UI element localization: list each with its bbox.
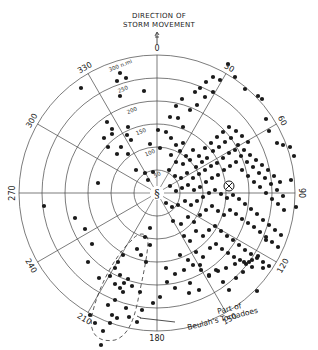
storm-point — [185, 171, 189, 175]
storm-point — [179, 176, 183, 180]
storm-point — [225, 196, 229, 200]
storm-point — [228, 164, 232, 168]
storm-point — [194, 250, 198, 254]
storm-point — [233, 148, 237, 152]
storm-point — [118, 286, 122, 290]
storm-point — [216, 173, 220, 177]
storm-point — [169, 136, 173, 140]
storm-point — [173, 286, 177, 290]
storm-point — [264, 117, 268, 121]
storm-point — [241, 270, 245, 274]
storm-point — [201, 255, 205, 259]
storm-point — [187, 291, 191, 295]
storm-point — [273, 228, 277, 232]
inner-spoke — [161, 199, 169, 213]
storm-point — [164, 130, 168, 134]
storm-point — [119, 145, 123, 149]
storm-point — [148, 243, 152, 247]
bearing-label-270: 270 — [8, 185, 17, 200]
storm-point — [269, 182, 273, 186]
storm-point — [282, 208, 286, 212]
storm-point — [138, 290, 142, 294]
storm-point — [108, 274, 112, 278]
inner-spoke — [137, 197, 151, 205]
bearing-label-180: 180 — [149, 334, 164, 343]
storm-point — [267, 129, 271, 133]
storm-point — [197, 154, 201, 158]
storm-point — [270, 240, 274, 244]
storm-point — [102, 136, 106, 140]
storm-point — [42, 204, 46, 208]
storm-point — [193, 90, 197, 94]
storm-point — [186, 215, 190, 219]
storm-point — [143, 235, 147, 239]
storm-point — [256, 254, 260, 258]
storm-point — [219, 192, 223, 196]
storm-point — [246, 174, 250, 178]
storm-point — [272, 174, 276, 178]
storm-point — [110, 127, 114, 131]
storm-point — [199, 268, 203, 272]
storm-point — [260, 163, 264, 167]
bearing-label-0: 0 — [154, 44, 159, 53]
storm-point — [197, 288, 201, 292]
centroid-marker-icon — [224, 181, 234, 191]
storm-point — [243, 87, 247, 91]
storm-point — [226, 251, 230, 255]
storm-point — [264, 238, 268, 242]
storm-point — [234, 160, 238, 164]
storm-point — [213, 224, 217, 228]
storm-point — [96, 181, 100, 185]
storm-point — [264, 191, 268, 195]
storm-point — [219, 229, 223, 233]
storm-point — [144, 260, 148, 264]
bearing-label-300: 300 — [24, 112, 39, 130]
storm-point — [207, 228, 211, 232]
storm-point — [121, 290, 125, 294]
storm-point — [181, 125, 185, 129]
storm-point — [106, 145, 110, 149]
storm-point — [270, 197, 274, 201]
storm-point — [158, 146, 162, 150]
storm-point — [261, 218, 265, 222]
storm-point — [254, 158, 258, 162]
storm-point — [227, 288, 231, 292]
inner-spoke — [137, 182, 151, 190]
storm-point — [232, 255, 236, 259]
storm-point — [174, 143, 178, 147]
storm-point — [252, 180, 256, 184]
storm-point — [146, 178, 150, 182]
storm-point — [201, 195, 205, 199]
storm-point — [255, 289, 259, 293]
north-arrow-icon — [155, 32, 159, 44]
storm-point — [181, 141, 185, 145]
storm-point — [209, 141, 213, 145]
storm-point — [228, 208, 232, 212]
storm-point — [118, 273, 122, 277]
storm-point — [292, 154, 296, 158]
storm-point — [186, 258, 190, 262]
storm-point — [263, 176, 267, 180]
storm-point — [121, 253, 125, 257]
storm-point — [176, 203, 180, 207]
storm-point — [184, 154, 188, 158]
storm-point — [164, 266, 168, 270]
storm-point — [115, 152, 119, 156]
storm-point — [242, 260, 246, 264]
storm-point — [246, 221, 250, 225]
storm-point — [97, 276, 101, 280]
storm-point — [246, 140, 250, 144]
storm-point — [240, 134, 244, 138]
storm-point — [189, 203, 193, 207]
storm-point — [245, 160, 249, 164]
storm-point — [238, 258, 242, 262]
storm-point — [135, 320, 139, 324]
storm-point — [182, 234, 186, 238]
storm-point — [110, 313, 114, 317]
storm-point — [173, 272, 177, 276]
storm-point — [216, 209, 220, 213]
storm-point — [248, 153, 252, 157]
beulah-annotation: Part of Beulah's Tornadoes — [137, 301, 259, 332]
bearing-label-330: 330 — [76, 60, 94, 75]
storm-point — [174, 160, 178, 164]
